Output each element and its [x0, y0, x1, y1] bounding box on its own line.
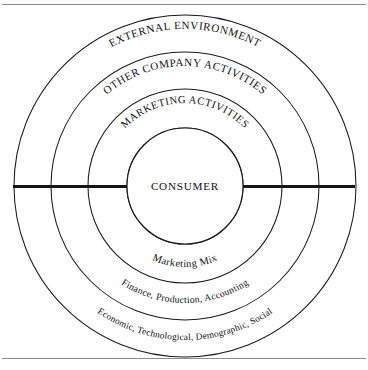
marketing-environment-figure: CONSUMER EXTERNAL ENVIRONMENT OTHER COMP… — [0, 0, 368, 370]
consumer-label: CONSUMER — [151, 180, 219, 192]
marketing-mix-label: Marketing Mix — [151, 252, 219, 270]
marketing-activities-label: MARKETING ACTIVITIES — [119, 94, 252, 130]
concentric-rings-diagram: CONSUMER EXTERNAL ENVIRONMENT OTHER COMP… — [0, 0, 368, 370]
finance-production-accounting-label: Finance, Production, Accounting — [120, 276, 250, 305]
economic-technological-demographic-social-label: Economic, Technological, Demographic, So… — [96, 306, 274, 342]
other-company-activities-label: OTHER COMPANY ACTIVITIES — [101, 56, 270, 97]
